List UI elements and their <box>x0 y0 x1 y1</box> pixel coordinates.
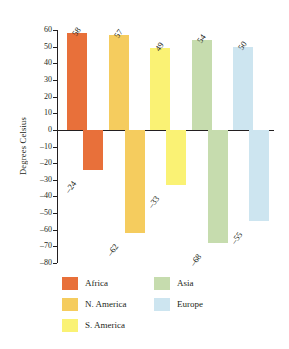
y-tick-mark <box>53 147 57 148</box>
y-axis-title: Degrees Celsius <box>18 96 30 196</box>
bar-value-label: –55 <box>230 231 245 247</box>
y-tick-mark <box>53 97 57 98</box>
bar-negative <box>208 130 228 243</box>
bar-positive <box>150 48 170 130</box>
y-tick-label: 40 <box>30 57 52 68</box>
y-tick-label: –30 <box>30 174 52 185</box>
legend-label: N. America <box>85 297 126 311</box>
legend-swatch <box>62 319 78 332</box>
bar-positive <box>192 40 212 130</box>
y-tick-mark <box>53 246 57 247</box>
chart-legend: AfricaN. AmericaS. AmericaAsiaEurope <box>62 276 262 338</box>
legend-label: S. America <box>85 318 125 332</box>
legend-swatch <box>62 298 78 311</box>
y-tick-label: 60 <box>30 24 52 35</box>
bar-chart: Degrees Celsius 6050403020100–10–20–30–4… <box>0 0 289 349</box>
bar-negative <box>83 130 103 170</box>
y-tick-mark <box>53 47 57 48</box>
y-tick-mark <box>53 163 57 164</box>
y-tick-label: 50 <box>30 41 52 52</box>
y-tick-label: 30 <box>30 74 52 85</box>
bar-value-label: –33 <box>147 194 162 210</box>
y-tick-label: 10 <box>30 107 52 118</box>
y-tick-label: –80 <box>30 257 52 268</box>
bar-negative <box>249 130 269 222</box>
y-tick-mark <box>53 180 57 181</box>
bar-positive <box>109 35 129 130</box>
y-tick-mark <box>53 63 57 64</box>
legend-label: Europe <box>177 297 203 311</box>
y-tick-mark <box>53 230 57 231</box>
y-tick-label: 0 <box>30 124 52 135</box>
y-tick-label: –50 <box>30 207 52 218</box>
bar-negative <box>166 130 186 185</box>
y-tick-mark <box>53 196 57 197</box>
y-tick-label: –20 <box>30 157 52 168</box>
y-tick-label: –60 <box>30 224 52 235</box>
plot-area: 6050403020100–10–20–30–40–50–60–70–80 58… <box>57 30 274 263</box>
legend-label: Africa <box>85 276 108 290</box>
bar-value-label: –24 <box>64 179 79 195</box>
bar-positive <box>233 47 253 130</box>
y-tick-mark <box>53 113 57 114</box>
y-tick-mark <box>53 263 57 264</box>
y-tick-label: 20 <box>30 91 52 102</box>
y-tick-mark <box>53 30 57 31</box>
legend-label: Asia <box>177 276 194 290</box>
y-tick-mark <box>53 80 57 81</box>
legend-swatch <box>62 277 78 290</box>
bar-value-label: –62 <box>105 242 120 258</box>
bar-positive <box>67 33 87 130</box>
y-tick-mark <box>53 213 57 214</box>
legend-swatch <box>154 298 170 311</box>
bar-value-label: –68 <box>188 252 203 268</box>
y-tick-label: –40 <box>30 190 52 201</box>
bar-negative <box>125 130 145 233</box>
legend-swatch <box>154 277 170 290</box>
y-tick-label: –70 <box>30 240 52 251</box>
y-axis-line <box>57 30 58 263</box>
y-tick-label: –10 <box>30 141 52 152</box>
